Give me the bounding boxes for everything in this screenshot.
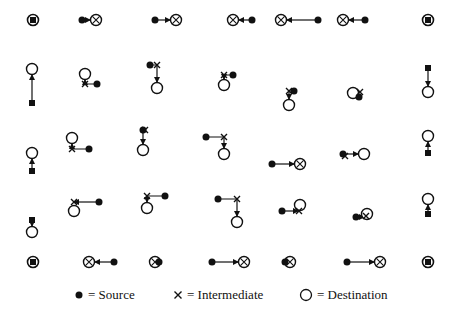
path-r3-b: [142, 193, 169, 214]
source-dot-icon: [111, 259, 118, 266]
source-dot-icon: [74, 290, 84, 300]
destination-circle-icon: [359, 149, 370, 160]
source-dot-icon: [203, 134, 210, 141]
destination-xcircle-icon: [276, 15, 287, 26]
source-dot-icon: [156, 259, 163, 266]
path-top-3: [228, 15, 256, 26]
source-dot-icon: [344, 259, 351, 266]
source-dot-icon: [315, 17, 322, 24]
source-square-icon: [29, 168, 35, 174]
destination-circle-icon: [219, 149, 230, 160]
legend-intermediate-label: = Intermediate: [187, 287, 263, 303]
path-r2-b: [138, 127, 149, 156]
path-right-1: [423, 65, 434, 98]
destination-circle-icon: [152, 83, 163, 94]
routing-diagram: [0, 0, 457, 285]
source-dot-icon: [162, 193, 169, 200]
path-r2-d: [269, 159, 306, 170]
path-r1-a: [80, 69, 101, 88]
path-left-3: [27, 217, 38, 238]
path-bottom-1: [84, 257, 118, 268]
path-top-4: [276, 15, 322, 26]
source-dot-icon: [79, 17, 86, 24]
path-top-1: [79, 15, 102, 26]
destination-xcircle-icon: [228, 15, 239, 26]
destination-circle-icon: [142, 203, 153, 214]
destination-xcircle-icon: [84, 257, 95, 268]
source-square-icon: [29, 100, 35, 106]
source-square-icon: [425, 211, 431, 217]
path-r2-a: [67, 133, 93, 153]
intermediate-x-icon: [173, 290, 183, 300]
source-dot-icon: [282, 259, 289, 266]
destination-circle-icon: [284, 100, 295, 111]
source-dot-icon: [152, 17, 159, 24]
legend-intermediate: = Intermediate: [173, 287, 263, 303]
destination-circle-icon: [423, 87, 434, 98]
corner-node: [423, 257, 434, 268]
destination-xcircle-icon: [171, 15, 182, 26]
destination-circle-icon: [299, 288, 313, 302]
legend-destination: = Destination: [299, 287, 388, 303]
source-dot-icon: [215, 196, 222, 203]
destination-xcircle-icon: [91, 15, 102, 26]
source-dot-icon: [209, 259, 216, 266]
destination-xcircle-icon: [239, 257, 250, 268]
corner-node: [28, 15, 39, 26]
destination-circle-icon: [27, 148, 38, 159]
source-dot-icon: [94, 81, 101, 88]
source-dot-icon: [269, 161, 276, 168]
destination-xcircle-icon: [295, 159, 306, 170]
path-right-2: [423, 131, 434, 157]
legend-destination-label: = Destination: [317, 287, 388, 303]
path-bottom-5: [344, 257, 386, 268]
diagram-layer: [27, 15, 434, 268]
source-dot-icon: [362, 17, 369, 24]
path-top-2: [152, 15, 182, 26]
path-r2-c: [203, 134, 230, 160]
source-dot-icon: [353, 214, 360, 221]
source-dot-icon: [147, 62, 154, 69]
path-r1-c: [219, 72, 237, 91]
destination-circle-icon: [69, 206, 80, 217]
destination-circle-icon: [423, 194, 434, 205]
path-bottom-2: [150, 257, 163, 268]
source-dot-icon: [86, 146, 93, 153]
corner-node: [28, 257, 39, 268]
path-left-1: [27, 64, 38, 107]
path-r3-a: [69, 199, 103, 217]
destination-circle-icon: [80, 69, 91, 80]
destination-circle-icon: [423, 131, 434, 142]
destination-circle-icon: [219, 80, 230, 91]
path-r1-e: [348, 88, 364, 101]
destination-circle-icon: [232, 217, 243, 228]
destination-xcircle-icon: [375, 257, 386, 268]
path-bottom-3: [209, 257, 250, 268]
source-dot-icon: [249, 17, 256, 24]
path-top-5: [338, 15, 369, 26]
path-bottom-4: [282, 257, 296, 268]
path-right-3: [423, 194, 434, 218]
destination-circle-icon: [27, 227, 38, 238]
corner-node: [423, 15, 434, 26]
legend: = Source = Intermediate = Destination: [0, 287, 457, 307]
legend-source: = Source: [74, 287, 135, 303]
path-r3-c: [215, 196, 243, 228]
destination-circle-icon: [27, 64, 38, 75]
source-dot-icon: [230, 72, 237, 79]
source-dot-icon: [279, 208, 286, 215]
destination-xcircle-icon: [338, 15, 349, 26]
destination-circle-icon: [138, 145, 149, 156]
path-r1-b: [147, 62, 163, 94]
path-r2-e: [340, 149, 370, 160]
source-square-icon: [425, 65, 431, 71]
path-r3-e: [353, 209, 373, 221]
path-r3-d: [279, 200, 306, 215]
legend-source-label: = Source: [88, 287, 135, 303]
source-dot-icon: [356, 94, 363, 101]
source-square-icon: [425, 150, 431, 156]
source-dot-icon: [96, 199, 103, 206]
source-square-icon: [29, 217, 35, 223]
path-left-2: [27, 148, 38, 175]
destination-circle-icon: [67, 133, 78, 144]
